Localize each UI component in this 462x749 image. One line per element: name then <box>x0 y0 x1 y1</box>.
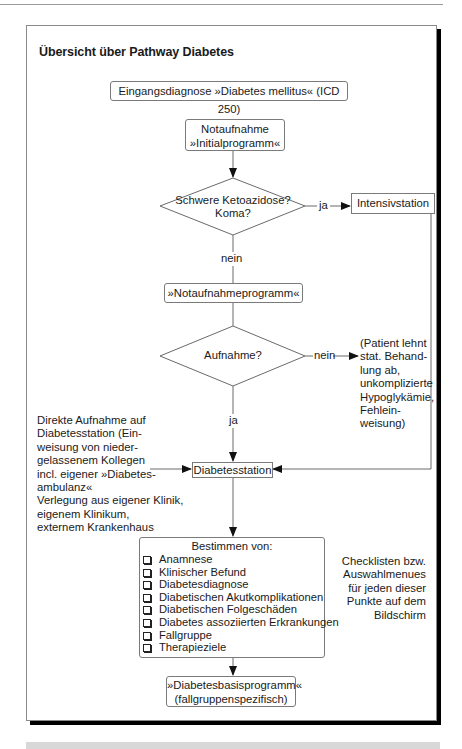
direct-admission-line: Direkte Aufnahme auf <box>37 414 183 427</box>
checkbox-icon <box>143 619 151 627</box>
checkbox-icon <box>143 569 151 577</box>
direct-admission-line: eigenem Klinikum, <box>37 508 183 521</box>
notaufnahme-label: Notaufnahme <box>186 122 284 136</box>
intensivstation-label: Intensivstation <box>357 197 429 209</box>
checklist-hint-line: Checklisten bzw. <box>342 555 426 568</box>
checklist-item-label: Therapieziele <box>159 641 226 653</box>
rejection-note-line: Hypoglykämie, <box>360 391 434 404</box>
direct-admission-line: gelassenem Kollegen <box>37 454 183 467</box>
rejection-note-line: unkomplizierte <box>360 377 434 390</box>
checkbox-icon <box>143 606 151 614</box>
direct-admission-line: Verlegung aus eigener Klinik, <box>37 494 183 507</box>
checklist-item: Therapieziele <box>140 641 324 654</box>
decision-ketoazidose-line1: Schwere Ketoazidose? <box>170 194 296 207</box>
checklist-item: Diabetes assoziierten Erkrankungen <box>140 616 324 629</box>
rejection-note-line: lung ab, <box>360 364 434 377</box>
checklist-item: Fallgruppe <box>140 629 324 642</box>
diabetesbasisprogramm-box: »Diabetesbasisprogramm« (fallgruppenspez… <box>166 676 296 707</box>
checklist-item: Diabetesdiagnose <box>140 578 324 591</box>
checklist-item: Diabetischen Akutkomplikationen <box>140 591 324 604</box>
rejection-note-line: stat. Behand- <box>360 350 434 363</box>
notaufnahmeprogramm-label: »Notaufnahmeprogramm« <box>168 287 300 299</box>
rejection-note-line: Fehlein- <box>360 404 434 417</box>
notaufnahme-box: Notaufnahme »Initialprogramm« <box>185 119 285 151</box>
checkbox-icon <box>143 556 151 564</box>
bestimmen-header: Bestimmen von: <box>140 540 324 553</box>
intensivstation-box: Intensivstation <box>351 193 435 214</box>
edge-label-ja-1: ja <box>319 199 328 212</box>
direct-admission-line: Diabetesstation (Ein- <box>37 427 183 440</box>
fallgruppenspezifisch-label: (fallgruppenspezifisch) <box>167 692 295 706</box>
checkbox-icon <box>143 581 151 589</box>
diabetesstation-label: Diabetesstation <box>194 464 272 476</box>
checklist-item-label: Anamnese <box>159 553 213 565</box>
checklist-item-label: Diabetischen Folgeschäden <box>159 603 297 615</box>
checklist-item: Klinischer Befund <box>140 566 324 579</box>
checklist-item: Diabetischen Folgeschäden <box>140 603 324 616</box>
initialprogramm-label: »Initialprogramm« <box>186 136 284 150</box>
checkbox-icon <box>143 644 151 652</box>
rejection-note-line: (Patient lehnt <box>360 337 434 350</box>
checklist-item-label: Klinischer Befund <box>159 566 246 578</box>
checklist-hint-note: Checklisten bzw. Auswahlmenues für jeden… <box>342 555 426 622</box>
edge-label-ja-2: ja <box>229 414 238 427</box>
direct-admission-line: weisung von nieder- <box>37 441 183 454</box>
diabetesstation-box: Diabetesstation <box>192 462 273 478</box>
diabetesbasisprogramm-label: »Diabetesbasisprogramm« <box>167 678 295 692</box>
bestimmen-box: Bestimmen von: Anamnese Klinischer Befun… <box>139 537 325 658</box>
checklist-hint-line: Bildschirm <box>342 609 426 622</box>
checklist-item-label: Diabetesdiagnose <box>159 578 249 590</box>
rejection-note-line: weisung) <box>360 417 434 430</box>
checklist-hint-line: für jeden dieser <box>342 582 426 595</box>
checklist-item-label: Fallgruppe <box>159 629 212 641</box>
direct-admission-line: ambulanz« <box>37 481 183 494</box>
decision-ketoazidose-line2: Koma? <box>170 207 296 220</box>
direct-admission-line: externem Krankenhaus <box>37 521 183 534</box>
direct-admission-note: Direkte Aufnahme auf Diabetesstation (Ei… <box>37 414 183 535</box>
checkbox-icon <box>143 632 151 640</box>
checkbox-icon <box>143 594 151 602</box>
checklist: Anamnese Klinischer Befund Diabetesdiagn… <box>140 553 324 654</box>
direct-admission-line: incl. eigener »Diabetes- <box>37 468 183 481</box>
checklist-item-label: Diabetischen Akutkomplikationen <box>159 591 323 603</box>
decision-aufnahme: Aufnahme? <box>170 349 296 362</box>
rejection-note: (Patient lehnt stat. Behand- lung ab, un… <box>360 337 434 431</box>
notaufnahmeprogramm-box: »Notaufnahmeprogramm« <box>164 283 303 303</box>
checklist-hint-line: Auswahlmenues <box>342 568 426 581</box>
checklist-item: Anamnese <box>140 553 324 566</box>
page-footer-bar <box>26 742 440 749</box>
decision-ketoazidose: Schwere Ketoazidose? Koma? <box>170 194 296 221</box>
checklist-item-label: Diabetes assoziierten Erkrankungen <box>159 616 339 628</box>
checklist-hint-line: Punkte auf dem <box>342 595 426 608</box>
entry-diagnosis-box: Eingangsdiagnose »Diabetes mellitus« (IC… <box>110 81 348 101</box>
edge-label-nein-2: nein <box>314 349 335 362</box>
edge-label-nein-1: nein <box>221 252 242 265</box>
